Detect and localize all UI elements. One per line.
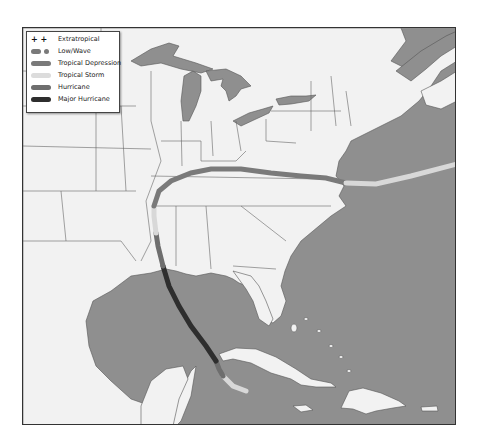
low-wave-dots-icon xyxy=(31,46,53,57)
tropical-storm-bar-icon xyxy=(31,70,53,81)
extratropical-plus-icon: + + xyxy=(31,34,53,45)
track-segment-tropical-storm-mid xyxy=(154,206,156,233)
legend-item-tropical-storm: Tropical Storm xyxy=(27,70,119,81)
hurricane-bar-icon xyxy=(31,82,53,93)
legend-item-major-hurricane: Major Hurricane xyxy=(27,94,119,105)
puerto-rico xyxy=(421,406,438,411)
map-legend: + + Extratropical Low/Wave Tropical Depr… xyxy=(26,31,120,113)
legend-item-low-wave: Low/Wave xyxy=(27,46,119,57)
major-hurricane-bar-icon xyxy=(31,94,53,105)
legend-item-extratropical: + + Extratropical xyxy=(27,34,119,45)
legend-item-hurricane: Hurricane xyxy=(27,82,119,93)
legend-item-tropical-depression: Tropical Depression xyxy=(27,58,119,69)
tropical-depression-bar-icon xyxy=(31,58,53,69)
